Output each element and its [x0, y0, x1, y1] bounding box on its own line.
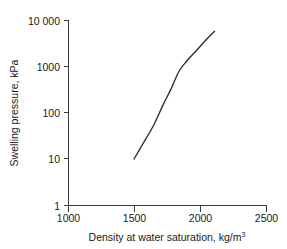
x-axis-title-text: Density at water saturation, kg/m [89, 231, 242, 243]
x-axis-title: Density at water saturation, kg/m3 [89, 230, 246, 243]
chart-figure: 10 000 1000 100 10 1 1000 1500 2000 2500… [0, 0, 287, 249]
x-tick-label-1500: 1500 [123, 212, 147, 224]
y-tick-label-10000: 10 000 [28, 15, 60, 27]
x-tick-label-2000: 2000 [189, 212, 213, 224]
y-tick-label-100: 100 [42, 107, 60, 119]
swelling-pressure-chart: 10 000 1000 100 10 1 1000 1500 2000 2500… [0, 0, 287, 249]
x-axis-title-superscript: 3 [241, 230, 245, 239]
y-tick-label-1000: 1000 [37, 61, 61, 73]
y-axis-title: Swelling pressure, kPa [8, 59, 20, 166]
x-tick-label-2500: 2500 [255, 212, 279, 224]
y-tick-label-10: 10 [48, 153, 60, 165]
x-tick-label-1000: 1000 [57, 212, 81, 224]
y-tick-label-1: 1 [54, 200, 60, 212]
